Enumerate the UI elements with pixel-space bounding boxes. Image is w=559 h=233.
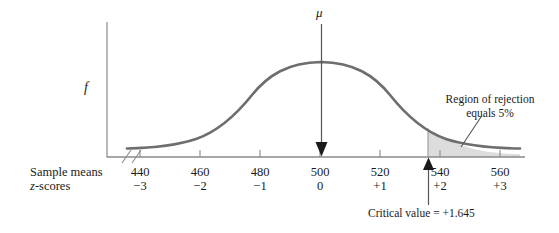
sample-means-row-label: Sample means [30, 165, 103, 179]
normal-distribution-figure: f μ Sample means z-scores 440 −3 460 −2 … [0, 0, 559, 233]
tick-zscore: −3 [117, 179, 163, 193]
tick-value: 440 [117, 165, 163, 179]
rejection-region-shading [428, 130, 520, 158]
y-axis-label: f [84, 80, 88, 96]
tick-label-540: 540 +2 [417, 165, 463, 193]
tick-zscore: +2 [417, 179, 463, 193]
rejection-region-note: Region of rejection equals 5% [420, 92, 559, 120]
tick-zscore: −2 [177, 179, 223, 193]
critical-value-caption: Critical value = +1.645 [368, 207, 475, 220]
z-scores-suffix: -scores [35, 179, 70, 193]
tick-label-500: 500 0 [297, 165, 343, 193]
tick-value: 520 [357, 165, 403, 179]
rejection-region-note-line2: equals 5% [466, 107, 514, 119]
tick-value: 540 [417, 165, 463, 179]
tick-value: 500 [297, 165, 343, 179]
tick-label-560: 560 +3 [477, 165, 523, 193]
mean-arrowhead-icon [316, 142, 328, 157]
tick-label-520: 520 +1 [357, 165, 403, 193]
mean-symbol-label: μ [316, 6, 323, 21]
tick-value: 560 [477, 165, 523, 179]
tick-label-480: 480 −1 [237, 165, 283, 193]
tick-zscore: +1 [357, 179, 403, 193]
tick-zscore: +3 [477, 179, 523, 193]
z-scores-row-label: z-scores [30, 179, 70, 193]
tick-value: 480 [237, 165, 283, 179]
tick-zscore: −1 [237, 179, 283, 193]
rejection-region-note-line1: Region of rejection [446, 93, 535, 105]
region-note-leader-line [461, 117, 481, 147]
tick-value: 460 [177, 165, 223, 179]
tick-zscore: 0 [297, 179, 343, 193]
tick-label-460: 460 −2 [177, 165, 223, 193]
tick-label-440: 440 −3 [117, 165, 163, 193]
